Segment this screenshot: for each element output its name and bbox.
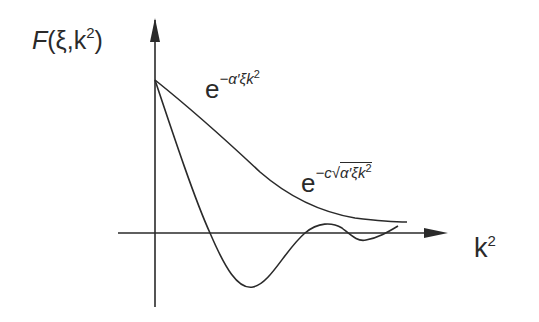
gaussian-decay-curve [155, 80, 407, 222]
gaussian-decay-label: e−α′ξk2 [205, 68, 260, 105]
x-axis-arrow-icon [424, 228, 448, 238]
x-axis-label: k2 [474, 232, 496, 264]
sqrt-exponential-label: e−c√α′ξk2 [301, 162, 372, 199]
y-axis-label: F(ξ,k2) [32, 24, 103, 55]
y-axis-arrow-icon [150, 18, 160, 42]
sqrt-icon: √ [332, 164, 340, 181]
